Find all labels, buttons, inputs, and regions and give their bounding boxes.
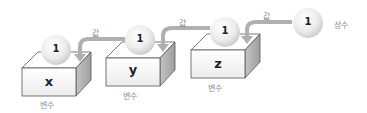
- arrow-label-y-to-x: 값: [92, 27, 99, 38]
- arrow-label-z-to-y: 값: [179, 17, 186, 28]
- value-y: 1: [130, 33, 150, 44]
- variable-name-y: y: [106, 62, 160, 77]
- variable-label-z: 변수: [208, 82, 222, 93]
- variable-label-x: 변수: [40, 99, 54, 110]
- constant-label: 상수: [334, 19, 348, 30]
- value-x: 1: [46, 43, 66, 54]
- arrow-label-constant-to-z: 값: [263, 10, 270, 21]
- arrow-constant-to-z: [241, 22, 292, 44]
- variable-name-x: x: [22, 74, 76, 89]
- value-z: 1: [215, 25, 235, 36]
- variable-label-y: 변수: [123, 90, 137, 101]
- constant-value: 1: [298, 16, 318, 27]
- variable-name-z: z: [191, 56, 245, 71]
